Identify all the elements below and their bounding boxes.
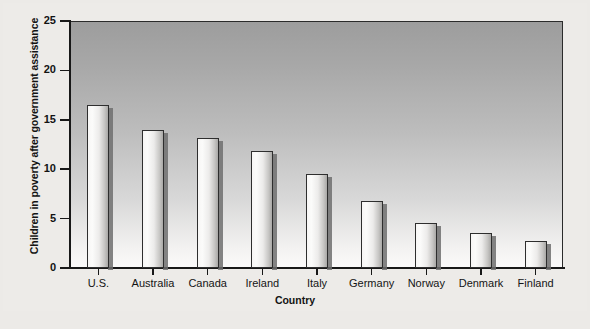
x-axis-tick: [98, 269, 100, 275]
y-axis-tick-label: 0: [4, 261, 56, 273]
x-axis-tick: [426, 269, 428, 275]
x-axis-tick: [207, 269, 209, 275]
bar-germany: [361, 201, 383, 268]
y-axis-tick: [60, 70, 69, 72]
x-axis-tick-label: Norway: [408, 277, 445, 289]
y-axis-line: [69, 20, 71, 269]
x-axis-tick-label: Ireland: [246, 277, 280, 289]
x-axis-tick: [152, 269, 154, 275]
y-axis-tick-label: 10: [4, 162, 56, 174]
x-axis-title: Country: [0, 294, 590, 306]
y-axis-tick-label: 15: [4, 113, 56, 125]
y-axis-tick: [60, 218, 69, 220]
x-axis-tick: [535, 269, 537, 275]
chart-figure: Children in poverty after government ass…: [0, 0, 590, 329]
x-axis-tick-label: Denmark: [459, 277, 504, 289]
bar-denmark: [470, 233, 492, 268]
x-axis-tick-label: Canada: [188, 277, 227, 289]
y-axis-tick-label: 25: [4, 14, 56, 26]
bar-australia: [142, 130, 164, 268]
x-axis-tick: [480, 269, 482, 275]
y-axis-tick: [60, 267, 69, 269]
bar-italy: [306, 174, 328, 268]
x-axis-tick-label: U.S.: [88, 277, 109, 289]
x-axis-tick-label: Germany: [349, 277, 394, 289]
x-axis-tick-label: Australia: [132, 277, 175, 289]
x-axis-tick-label: Finland: [518, 277, 554, 289]
y-axis-tick: [60, 119, 69, 121]
x-axis-tick-label: Italy: [307, 277, 327, 289]
bar-norway: [415, 223, 437, 268]
bar-finland: [525, 241, 547, 268]
bar-u-s: [87, 105, 109, 268]
x-axis-tick: [371, 269, 373, 275]
bar-canada: [197, 138, 219, 268]
x-axis-tick: [316, 269, 318, 275]
y-axis-tick-label: 5: [4, 212, 56, 224]
y-axis-tick: [60, 168, 69, 170]
y-axis-tick-label: 20: [4, 63, 56, 75]
y-axis-title: Children in poverty after government ass…: [28, 6, 40, 266]
y-axis-tick: [60, 20, 69, 22]
x-axis-tick: [262, 269, 264, 275]
bar-ireland: [251, 151, 273, 268]
